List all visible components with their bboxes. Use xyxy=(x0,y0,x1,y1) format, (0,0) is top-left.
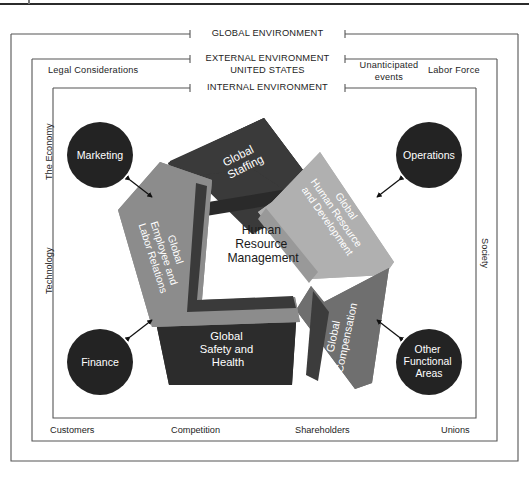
functional-area-other-functional-areas[interactable]: Other Functional Areas xyxy=(396,329,462,395)
hr-segment-global-compensation: Global Compensation xyxy=(296,268,389,389)
env-factor-society: Society xyxy=(480,238,490,268)
frame-label-external-environment: EXTERNAL ENVIRONMENT xyxy=(190,53,345,63)
functional-area-finance-label: Finance xyxy=(81,356,119,368)
frame-label-internal-environment: INTERNAL ENVIRONMENT xyxy=(190,82,345,92)
env-factor-unanticipated-events-line1: Unanticipated xyxy=(347,60,431,70)
env-factor-unions: Unions xyxy=(441,425,470,435)
env-factor-technology: Technology xyxy=(44,248,54,294)
env-factor-shareholders: Shareholders xyxy=(295,425,350,435)
functional-area-operations[interactable]: Operations xyxy=(396,122,462,188)
arrow-operations-to-hr xyxy=(377,180,399,197)
env-factor-customers: Customers xyxy=(50,425,94,435)
figure-root: Global Staffing Global Human Resource an… xyxy=(0,0,529,485)
env-factor-unanticipated-events-line2: events xyxy=(347,72,431,82)
env-factor-legal-considerations: Legal Considerations xyxy=(48,65,188,75)
env-factor-competition: Competition xyxy=(171,425,220,435)
frame-label-united-states: UNITED STATES xyxy=(190,65,345,75)
functional-area-finance[interactable]: Finance xyxy=(67,329,133,395)
functional-area-marketing[interactable]: Marketing xyxy=(67,122,133,188)
arrow-other-areas-to-hr xyxy=(377,320,399,337)
env-factor-labor-force: Labor Force xyxy=(428,65,518,75)
frame-label-global-environment: GLOBAL ENVIRONMENT xyxy=(190,28,345,38)
env-factor-the-economy: The Economy xyxy=(44,123,54,180)
arrow-finance-to-hr xyxy=(130,320,152,337)
functional-area-marketing-label: Marketing xyxy=(77,149,124,161)
functional-area-operations-label: Operations xyxy=(403,149,455,161)
